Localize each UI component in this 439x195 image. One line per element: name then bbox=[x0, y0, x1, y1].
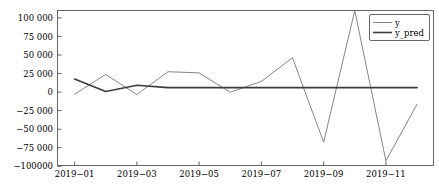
x-tick-marks bbox=[75, 162, 386, 166]
y-tick-label: 50 000 bbox=[23, 50, 53, 60]
x-tick-label: 2019−05 bbox=[179, 169, 219, 179]
x-tick-label: 2019−11 bbox=[366, 169, 406, 179]
y-tick-label: 25 000 bbox=[23, 69, 53, 79]
y-tick-label: 75 000 bbox=[23, 32, 53, 42]
y-tick-label: −25 000 bbox=[16, 106, 53, 116]
x-tick-label: 2019−07 bbox=[242, 169, 282, 179]
line-chart: 100 000 75 000 50 000 25 000 0 −25 000 −… bbox=[0, 0, 439, 195]
y-tick-marks bbox=[58, 18, 62, 166]
y-tick-label: 100 000 bbox=[18, 13, 53, 23]
legend-label-y: y bbox=[394, 18, 400, 28]
chart-figure: 100 000 75 000 50 000 25 000 0 −25 000 −… bbox=[0, 0, 439, 195]
legend-label-y-pred: y_pred bbox=[394, 28, 425, 39]
series-line-y-pred bbox=[75, 79, 417, 91]
y-tick-label: −75 000 bbox=[16, 143, 53, 153]
y-tick-label: −50 000 bbox=[16, 124, 53, 134]
x-tick-label: 2019−03 bbox=[117, 169, 157, 179]
y-tick-label: −100000 bbox=[13, 161, 53, 171]
x-tick-label: 2019−01 bbox=[55, 169, 95, 179]
x-tick-label: 2019−09 bbox=[304, 169, 344, 179]
series-line-y bbox=[75, 11, 417, 161]
y-tick-label: 0 bbox=[48, 87, 53, 97]
chart-legend[interactable]: y y_pred bbox=[370, 15, 430, 41]
